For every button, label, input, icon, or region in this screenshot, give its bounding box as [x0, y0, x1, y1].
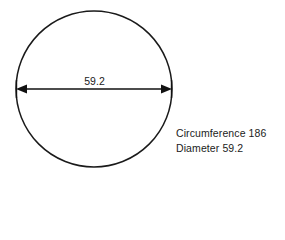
diameter-annotation: Diameter 59.2 — [176, 141, 266, 156]
circumference-annotation: Circumference 186 — [176, 126, 266, 141]
arrow-head-right-icon — [161, 84, 172, 93]
measurement-annotations: Circumference 186 Diameter 59.2 — [176, 126, 266, 156]
diameter-dimension-label: 59.2 — [84, 75, 105, 87]
arrow-head-left-icon — [16, 84, 27, 93]
